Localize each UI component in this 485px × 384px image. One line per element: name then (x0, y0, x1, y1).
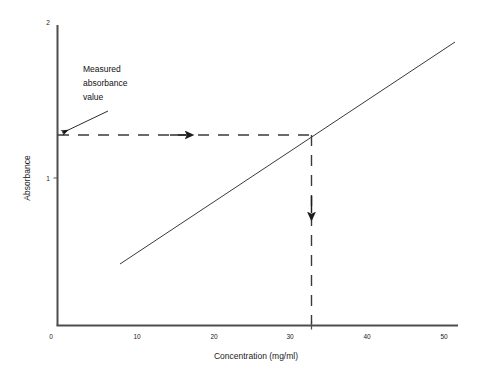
y-axis-title: Absorbance (22, 155, 32, 201)
x-tick-label-10: 10 (133, 333, 141, 340)
x-axis-title: Concentration (mg/ml) (214, 351, 298, 361)
x-tick-label-0: 0 (49, 333, 53, 340)
calibration-curve-figure: 2 1 0 10 20 30 40 50 Concentration (mg/m… (0, 0, 485, 384)
annotation-pointer-arrow (62, 111, 108, 133)
calibration-line (120, 42, 455, 264)
x-tick-label-50: 50 (440, 333, 448, 340)
annotation-line-1: Measured (83, 64, 121, 74)
y-tick-label-1: 1 (46, 175, 50, 182)
annotation-line-3: value (83, 92, 104, 102)
x-tick-label-20: 20 (210, 333, 218, 340)
x-tick-label-40: 40 (363, 333, 371, 340)
chart-canvas: 2 1 0 10 20 30 40 50 Concentration (mg/m… (0, 0, 485, 384)
annotation-line-2: absorbance (83, 78, 128, 88)
x-tick-label-30: 30 (286, 333, 294, 340)
y-tick-label-2: 2 (46, 19, 50, 26)
